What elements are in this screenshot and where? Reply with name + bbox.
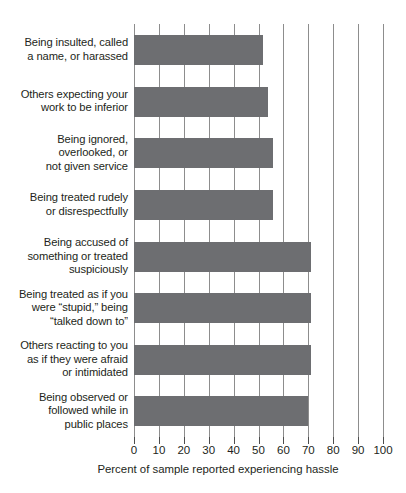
bar-rows (134, 24, 383, 437)
bar-row (134, 385, 383, 437)
category-label-line: Being ignored, (0, 133, 128, 147)
bar (134, 35, 263, 65)
x-tick-50 (259, 437, 260, 444)
x-tick-label-100: 100 (373, 444, 392, 456)
category-label-line: work to be inferior (0, 101, 128, 115)
category-label-line: Others reacting to you (0, 339, 128, 353)
category-label: Others expecting yourwork to be inferior (0, 88, 128, 115)
bar-row (134, 282, 383, 334)
category-label: Being accused ofsomething or treatedsusp… (0, 236, 128, 277)
category-label-line: Being insulted, called (0, 36, 128, 50)
bar (134, 345, 311, 375)
x-tick-10 (159, 437, 160, 444)
bar-row (134, 127, 383, 179)
bar-row (134, 231, 383, 283)
category-label-line: followed while in (0, 404, 128, 418)
category-label-line: or disrespectfully (0, 205, 128, 219)
category-label-line: were “stupid,” being (0, 301, 128, 315)
gridline-100 (383, 24, 384, 437)
bar (134, 138, 273, 168)
category-label: Being insulted, calleda name, or harasse… (0, 36, 128, 63)
x-axis-tick-labels: 0102030405060708090100 (0, 444, 406, 460)
x-tick-label-70: 70 (302, 444, 315, 456)
category-label-line: Being treated as if you (0, 288, 128, 302)
x-tick-label-10: 10 (152, 444, 165, 456)
bar (134, 87, 268, 117)
x-axis-title-text: Percent of sample reported experiencing … (97, 463, 338, 475)
x-tick-80 (333, 437, 334, 444)
category-label-line: something or treated (0, 250, 128, 264)
category-label-line: a name, or harassed (0, 50, 128, 64)
category-label-line: public places (0, 418, 128, 432)
x-tick-label-90: 90 (352, 444, 365, 456)
category-label: Being treated as if youwere “stupid,” be… (0, 288, 128, 329)
x-tick-label-60: 60 (277, 444, 290, 456)
category-label-line: Being observed or (0, 391, 128, 405)
x-tick-label-20: 20 (177, 444, 190, 456)
category-label-line: suspiciously (0, 263, 128, 277)
plot-area (134, 24, 383, 437)
bar (134, 242, 311, 272)
category-label-line: Being treated rudely (0, 191, 128, 205)
category-label-line: “talked down to” (0, 315, 128, 329)
bar-row (134, 179, 383, 231)
category-label-line: overlooked, or (0, 146, 128, 160)
x-tick-60 (283, 437, 284, 444)
category-label: Being treated rudelyor disrespectfully (0, 191, 128, 218)
x-tick-40 (234, 437, 235, 444)
x-tick-label-80: 80 (327, 444, 340, 456)
x-tick-70 (308, 437, 309, 444)
category-label: Being ignored,overlooked, ornot given se… (0, 133, 128, 174)
x-axis-title: Percent of sample reported experiencing … (0, 463, 406, 475)
x-tick-label-40: 40 (227, 444, 240, 456)
bar (134, 190, 273, 220)
bar-chart: Being insulted, calleda name, or harasse… (0, 0, 406, 493)
bar-row (134, 76, 383, 128)
category-axis-labels: Being insulted, calleda name, or harasse… (0, 24, 128, 437)
x-tick-label-30: 30 (202, 444, 215, 456)
x-tick-90 (358, 437, 359, 444)
category-label-line: or intimidated (0, 366, 128, 380)
category-label-line: Being accused of (0, 236, 128, 250)
x-tick-30 (209, 437, 210, 444)
category-label: Others reacting to youas if they were af… (0, 339, 128, 380)
bar-row (134, 334, 383, 386)
x-tick-100 (383, 437, 384, 444)
bar (134, 293, 311, 323)
x-tick-label-0: 0 (131, 444, 137, 456)
category-label-line: as if they were afraid (0, 353, 128, 367)
x-tick-label-50: 50 (252, 444, 265, 456)
x-tick-0 (134, 437, 135, 444)
category-label-line: not given service (0, 160, 128, 174)
x-tick-20 (184, 437, 185, 444)
category-label: Being observed orfollowed while inpublic… (0, 391, 128, 432)
bar (134, 396, 308, 426)
bar-row (134, 24, 383, 76)
category-label-line: Others expecting your (0, 88, 128, 102)
